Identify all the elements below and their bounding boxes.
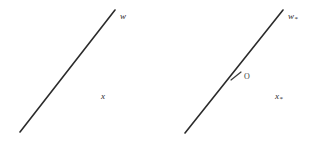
- label-w: w: [120, 12, 126, 21]
- panel-left-drawing: [0, 0, 158, 144]
- label-x-star: x*: [275, 92, 283, 104]
- label-w-text: w: [120, 11, 126, 21]
- label-x-text: x: [101, 91, 105, 101]
- panel-left: [0, 0, 158, 144]
- line-segment-left: [20, 10, 115, 132]
- label-w-star-text: w: [288, 11, 294, 21]
- label-w-star-asterisk: *: [295, 15, 299, 23]
- line-segment-right: [185, 10, 283, 133]
- label-x-star-text: x: [275, 91, 279, 101]
- label-x: x: [101, 92, 105, 101]
- figure-canvas: w x w* x* O: [0, 0, 316, 144]
- label-x-star-asterisk: *: [280, 95, 284, 103]
- label-origin: O: [244, 73, 250, 81]
- label-w-star: w*: [288, 12, 298, 24]
